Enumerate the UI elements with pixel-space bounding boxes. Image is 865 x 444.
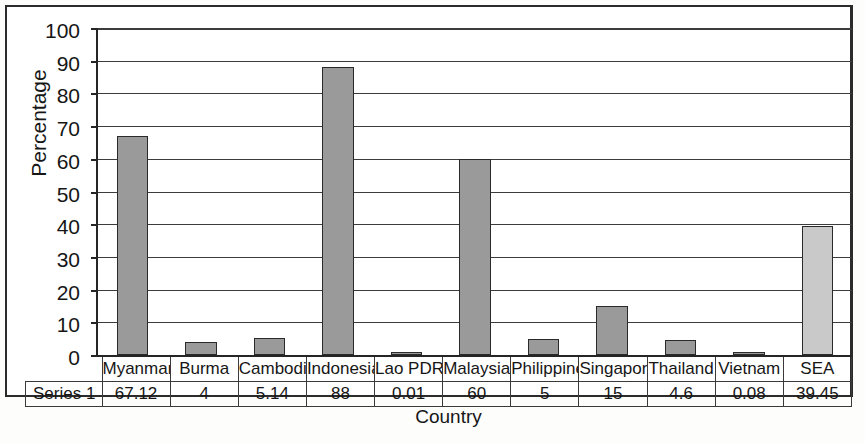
table-header-label: Philippines: [511, 359, 578, 379]
table-value-cell: 88: [306, 382, 374, 407]
y-tick-label-80: 80: [57, 85, 80, 106]
gridline-70: [98, 126, 852, 127]
bar-cambodia: [254, 338, 286, 355]
y-tick-100: 100: [91, 28, 98, 30]
y-tick-label-90: 90: [57, 52, 80, 73]
bar-myanmar: [117, 136, 149, 355]
y-tick-label-10: 10: [57, 314, 80, 335]
y-tick-label-40: 40: [57, 216, 80, 237]
table-header-label: Thailand: [648, 359, 715, 379]
table-header-cell: Philippines: [511, 357, 579, 382]
table-header-cell: Lao PDR: [375, 357, 443, 382]
y-tick-50: 50: [91, 192, 98, 194]
table-header-cell: Singapore: [579, 357, 647, 382]
bar-burma: [185, 342, 217, 355]
y-tick-label-60: 60: [57, 150, 80, 171]
table-header-cell: SEA: [783, 357, 851, 382]
table-header-cell: Thailand: [647, 357, 715, 382]
table-value: 4.6: [648, 384, 715, 404]
bar-thailand: [665, 340, 697, 355]
table-value-cell: 67.12: [102, 382, 170, 407]
table-value-cell: 0.01: [375, 382, 443, 407]
table-value-cell: 60: [443, 382, 511, 407]
bar-lao-pdr: [391, 352, 423, 356]
y-tick-70: 70: [91, 126, 98, 128]
table-header-label: Lao PDR: [375, 359, 442, 379]
table-value-cell: 4.6: [647, 382, 715, 407]
table-header-label: Singapore: [579, 359, 646, 379]
gridline-100: [98, 28, 852, 30]
plot-area: 1009080706050403020100: [96, 28, 852, 357]
table-value-cell: 5: [511, 382, 579, 407]
series-label-cell: Series 1: [26, 382, 103, 407]
table-header-cell: Vietnam: [715, 357, 783, 382]
table-header-label: Cambodia: [239, 359, 306, 379]
table-header-label: Indonesia: [307, 359, 374, 379]
table-value: 88: [307, 384, 374, 404]
x-axis-title: Country: [0, 406, 865, 428]
y-tick-20: 20: [91, 290, 98, 292]
y-tick-80: 80: [91, 93, 98, 95]
bar-indonesia: [322, 67, 354, 355]
bar-malaysia: [459, 159, 491, 355]
y-tick-label-30: 30: [57, 248, 80, 269]
chart-frame: Percentage 1009080706050403020100 Myanma…: [5, 5, 853, 397]
data-table: MyanmarBurmaCambodiaIndonesiaLao PDRMala…: [25, 357, 852, 407]
y-tick-40: 40: [91, 224, 98, 226]
y-tick-label-70: 70: [57, 118, 80, 139]
table-corner-cell: [26, 357, 103, 382]
series-label: Series 1: [33, 384, 102, 404]
table-value-cell: 15: [579, 382, 647, 407]
table-header-label: Malaysia: [443, 359, 510, 379]
bar-sea: [802, 226, 834, 355]
table-value-cell: 0.08: [715, 382, 783, 407]
y-tick-label-50: 50: [57, 183, 80, 204]
x-axis-title-text: Country: [415, 406, 482, 427]
bar-singapore: [596, 306, 628, 355]
y-tick-30: 30: [91, 257, 98, 259]
gridline-80: [98, 93, 852, 94]
table-value-row: Series 1 67.1245.14880.01605154.60.0839.…: [26, 382, 852, 407]
table-header-label: Burma: [171, 359, 238, 379]
y-tick-90: 90: [91, 61, 98, 63]
table-header-label: Vietnam: [716, 359, 783, 379]
y-axis-title: Percentage: [27, 33, 51, 213]
table-header-cell: Malaysia: [443, 357, 511, 382]
table-header-cell: Burma: [170, 357, 238, 382]
y-tick-label-100: 100: [45, 20, 80, 41]
table-value: 4: [171, 384, 238, 404]
table-value: 15: [579, 384, 646, 404]
table-value: 0.08: [716, 384, 783, 404]
table-value: 60: [443, 384, 510, 404]
y-tick-label-20: 20: [57, 281, 80, 302]
table-header-label: Myanmar: [103, 359, 170, 379]
y-tick-10: 10: [91, 322, 98, 324]
y-tick-60: 60: [91, 159, 98, 161]
table-header-cell: Indonesia: [306, 357, 374, 382]
table-value: 5.14: [239, 384, 306, 404]
gridline-90: [98, 61, 852, 62]
table-header-cell: Myanmar: [102, 357, 170, 382]
table-value-cell: 4: [170, 382, 238, 407]
table-header-cell: Cambodia: [238, 357, 306, 382]
table-value: 67.12: [103, 384, 170, 404]
table-value: 39.45: [784, 384, 851, 404]
table-header-row: MyanmarBurmaCambodiaIndonesiaLao PDRMala…: [26, 357, 852, 382]
bar-philippines: [528, 339, 560, 355]
table-value: 0.01: [375, 384, 442, 404]
table-header-label: SEA: [784, 359, 851, 379]
table-value-cell: 39.45: [783, 382, 851, 407]
bar-vietnam: [733, 352, 765, 356]
bar-chart-figure: Percentage 1009080706050403020100 Myanma…: [0, 0, 865, 444]
table-value-cell: 5.14: [238, 382, 306, 407]
table-value: 5: [511, 384, 578, 404]
